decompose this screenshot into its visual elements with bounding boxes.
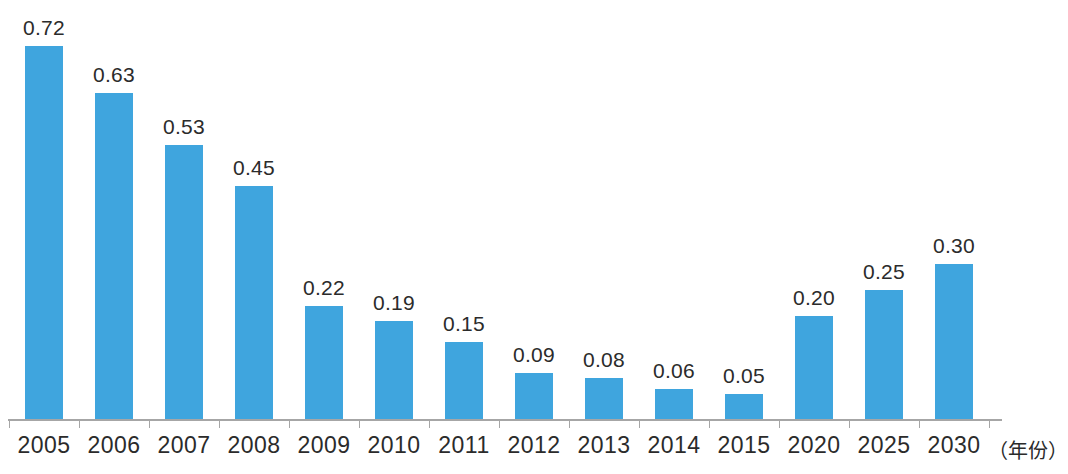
bar (25, 46, 63, 420)
bar-value-label: 0.05 (709, 364, 779, 388)
x-axis-tick (779, 419, 780, 428)
bar (585, 378, 623, 420)
bar-group: 0.19 (359, 0, 429, 420)
bar (515, 373, 553, 420)
x-axis-tick (219, 419, 220, 428)
x-axis-tick (709, 419, 710, 428)
bar-value-label: 0.08 (569, 348, 639, 372)
bar-group: 0.22 (289, 0, 359, 420)
bar-value-label: 0.20 (779, 286, 849, 310)
bar-value-label: 0.72 (9, 16, 79, 40)
x-axis-tick (499, 419, 500, 428)
x-axis-tick-label: 2006 (79, 432, 149, 459)
bar-value-label: 0.45 (219, 156, 289, 180)
x-axis-tick (9, 419, 10, 428)
x-axis-tick (289, 419, 290, 428)
x-axis-tick (359, 419, 360, 428)
x-axis-tick (849, 419, 850, 428)
bar-value-label: 0.25 (849, 260, 919, 284)
bar-group: 0.45 (219, 0, 289, 420)
bar-value-label: 0.06 (639, 359, 709, 383)
bar-group: 0.06 (639, 0, 709, 420)
x-axis-caption: （年份） (988, 435, 1068, 464)
x-axis-tick (989, 419, 990, 428)
bar-group: 0.09 (499, 0, 569, 420)
x-axis-tick-label: 2025 (849, 432, 919, 459)
bar-value-label: 0.19 (359, 291, 429, 315)
x-axis-tick-label: 2005 (9, 432, 79, 459)
bar (725, 394, 763, 420)
bar-chart: 0.720.630.530.450.220.190.150.090.080.06… (0, 0, 1068, 474)
bar-group: 0.25 (849, 0, 919, 420)
bar (655, 389, 693, 420)
bar-group: 0.53 (149, 0, 219, 420)
x-axis-tick (569, 419, 570, 428)
bar-value-label: 0.53 (149, 115, 219, 139)
x-axis-tick-label: 2020 (779, 432, 849, 459)
bar (935, 264, 973, 420)
bar-group: 0.20 (779, 0, 849, 420)
bar-group: 0.15 (429, 0, 499, 420)
x-axis-tick-label: 2009 (289, 432, 359, 459)
bar-value-label: 0.63 (79, 63, 149, 87)
bar (235, 186, 273, 420)
x-axis-tick-label: 2013 (569, 432, 639, 459)
bar-value-label: 0.30 (919, 234, 989, 258)
bar (165, 145, 203, 420)
bar-group: 0.08 (569, 0, 639, 420)
bar-value-label: 0.22 (289, 276, 359, 300)
x-axis-tick (639, 419, 640, 428)
x-axis-tick (149, 419, 150, 428)
bar (445, 342, 483, 420)
x-axis-tick (919, 419, 920, 428)
bar-value-label: 0.15 (429, 312, 499, 336)
bar-group: 0.30 (919, 0, 989, 420)
x-axis-tick-label: 2011 (429, 432, 499, 459)
bar (865, 290, 903, 420)
x-axis-tick-label: 2012 (499, 432, 569, 459)
x-axis-tick-label: 2007 (149, 432, 219, 459)
x-axis-line (8, 419, 1002, 421)
plot-area: 0.720.630.530.450.220.190.150.090.080.06… (0, 0, 1068, 420)
bar (95, 93, 133, 420)
x-axis-category-labels: （年份） 20052006200720082009201020112012201… (0, 432, 1068, 474)
x-axis-tick-label: 2014 (639, 432, 709, 459)
x-axis-tick-label: 2030 (919, 432, 989, 459)
x-axis-tick (79, 419, 80, 428)
bar (795, 316, 833, 420)
bar-value-label: 0.09 (499, 343, 569, 367)
bar (375, 321, 413, 420)
bar-group: 0.05 (709, 0, 779, 420)
bar-group: 0.72 (9, 0, 79, 420)
x-axis-tick (429, 419, 430, 428)
bar (305, 306, 343, 420)
bar-group: 0.63 (79, 0, 149, 420)
x-axis-tick-label: 2015 (709, 432, 779, 459)
x-axis-tick-label: 2008 (219, 432, 289, 459)
x-axis-tick-label: 2010 (359, 432, 429, 459)
